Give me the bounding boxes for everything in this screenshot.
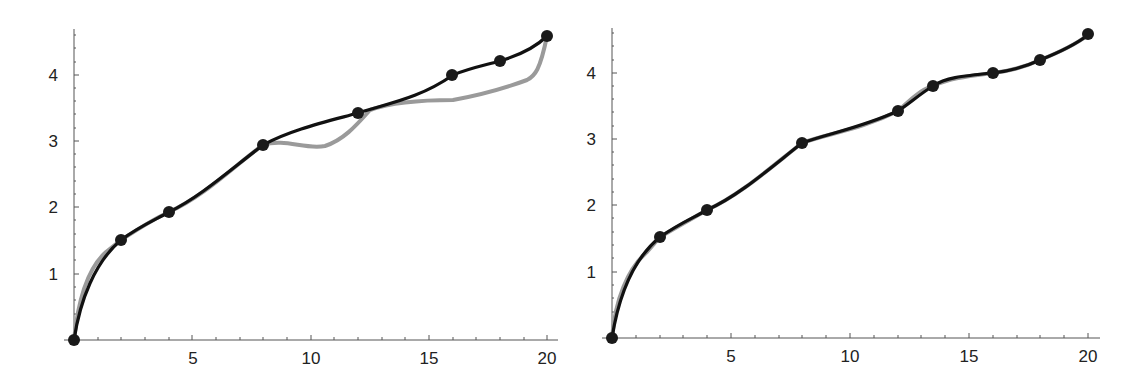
left-y-tick-label-1: 1 [49,265,58,284]
left-x-tick-label-5: 5 [188,349,197,368]
data-point [892,105,904,117]
left-x-tick-label-15: 15 [420,349,439,368]
data-point [1082,28,1094,40]
right-y-ticks [612,33,617,325]
left-x-tick-label-20: 20 [538,349,557,368]
left-y-tick-label-3: 3 [49,132,58,151]
left-y-tick-label-4: 4 [49,66,58,85]
data-point [701,204,713,216]
data-point [68,334,80,346]
right-x-ticks [636,333,1088,338]
left-reference-curve [74,36,547,340]
figure: 1 2 3 4 5 10 15 20 [0,0,1145,384]
left-interpolation-curve [74,36,547,340]
data-point [541,30,553,42]
data-point [987,67,999,79]
right-interpolation-curve [612,35,1088,338]
data-point [352,107,364,119]
left-x-ticks [98,335,547,340]
right-x-tick-label-20: 20 [1079,347,1098,366]
data-point [115,234,127,246]
left-y-tick-label-2: 2 [49,198,58,217]
left-x-tick-label-10: 10 [302,349,321,368]
data-point [796,137,808,149]
right-y-tick-label-2: 2 [587,196,596,215]
right-chart: 1 2 3 4 5 10 15 20 [587,28,1100,366]
data-point [927,80,939,92]
left-y-ticks [74,35,79,327]
data-point [446,69,458,81]
right-y-tick-label-4: 4 [587,64,596,83]
right-y-tick-label-1: 1 [587,263,596,282]
left-chart: 1 2 3 4 5 10 15 20 [49,29,558,368]
right-data-points [606,28,1094,344]
data-point [257,139,269,151]
left-data-points [68,30,553,346]
data-point [606,332,618,344]
right-x-tick-label-5: 5 [726,347,735,366]
right-y-tick-label-3: 3 [587,130,596,149]
right-reference-curve [612,35,1088,338]
data-point [163,206,175,218]
data-point [654,231,666,243]
data-point [1034,54,1046,66]
right-x-tick-label-15: 15 [960,347,979,366]
right-x-tick-label-10: 10 [841,347,860,366]
data-point [494,55,506,67]
